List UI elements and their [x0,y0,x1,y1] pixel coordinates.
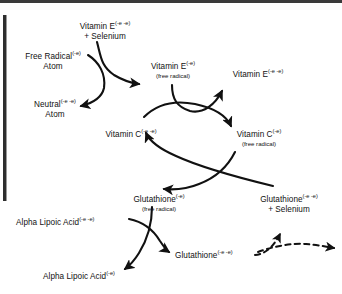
node-label-note: (free radical) [215,140,303,148]
node-vitamin-e-reduced: Vitamin E(-e -e) [214,66,302,80]
node-vitamin-e-selenium: Vitamin E(-e -e) + Selenium [46,18,164,42]
node-alpha-lipoic-acid-oxidized: Alpha Lipoic Acid(-e) [43,268,153,282]
node-label-line2: + Selenium [46,32,164,42]
node-label-main: Vitamin E [151,62,186,71]
node-vitamin-c-free-radical: Vitamin C(-e) (free radical) [215,126,303,148]
node-label-line2: + Selenium [238,205,340,215]
node-label-note: (free radical) [133,72,213,80]
node-label-sup: (-e -e) [79,216,94,222]
arrow-vitamin-e-free-radical-to-vitamin-e-reduced [172,85,222,112]
arrow-alpha-lipoic-acid-reduced-to-glutathione-reduced [129,219,169,252]
node-label-main: Neutral [34,100,61,109]
node-label-main: Vitamin C [105,130,141,139]
node-label-sup: (-e) [273,128,282,134]
node-label-sup: (-e) [72,50,81,56]
node-label-main: Vitamin E [233,70,268,79]
node-label-sup: (-e -e) [268,68,283,74]
node-label-main: Glutathione [133,195,175,204]
node-vitamin-c-reduced: Vitamin C(-e -e) [88,126,174,140]
node-neutral-atom: Neutral(-e -e) Atom [11,96,99,120]
diagram-canvas: Vitamin E(-e -e) + Selenium Free Radical… [0,0,342,294]
arrow-vitamin-c-free-radical-to-glutathione-free-radical [164,152,235,189]
node-glutathione-selenium: Glutathione(-e -e) + Selenium [238,191,340,215]
node-glutathione-reduced: Glutathione(-e -e) [175,247,271,261]
node-label-main: Glutathione [175,251,217,260]
node-vitamin-e-free-radical: Vitamin E(-e) (free radical) [133,58,213,80]
node-free-radical-atom: Free Radical(-e) Atom [7,48,99,72]
node-label-sup: (-e) [186,60,195,66]
node-label-main: Alpha Lipoic Acid [43,272,106,281]
node-label-sup: (-e -e) [303,193,318,199]
node-alpha-lipoic-acid-reduced: Alpha Lipoic Acid(-e -e) [16,214,134,228]
node-label-line2: Atom [7,62,99,72]
node-label-sup: (-e -e) [141,128,156,134]
node-label-note: (free radical) [112,205,206,213]
node-label-line2: Atom [11,110,99,120]
node-label-main: Vitamin C [237,130,273,139]
node-label-main: Free Radical [25,52,72,61]
arrow-vitamin-c-reduced-to-vitamin-c-free-radical [144,103,231,126]
node-label-sup: (-e) [106,270,115,276]
node-label-sup: (-e -e) [217,249,232,255]
node-label-main: Alpha Lipoic Acid [16,218,79,227]
node-label-main: Glutathione [260,195,302,204]
node-label-sup: (-e -e) [115,20,130,26]
node-glutathione-free-radical: Glutathione(-e) (free radical) [112,191,206,213]
node-label-sup: (-e) [176,193,185,199]
node-label-sup: (-e -e) [61,98,76,104]
node-label-main: Vitamin E [80,22,115,31]
